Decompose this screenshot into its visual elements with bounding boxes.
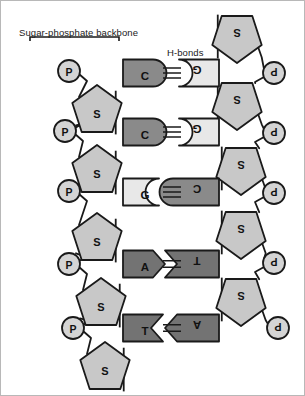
- left-sugar-label-2: S: [93, 236, 100, 248]
- base-label-right-0: G: [192, 64, 201, 76]
- left-sugar-label-1: S: [93, 168, 100, 180]
- dna-diagram-svg: SSSSSSSSSS CGCGGCATTA PPPPPPPPPP: [1, 1, 305, 396]
- right-sugar-label-2: S: [237, 159, 244, 171]
- right-sugar-label-4: S: [237, 290, 244, 302]
- right-link-p-to-s-3: [255, 267, 264, 279]
- backbone-bracket: [30, 37, 119, 41]
- right-link-p-to-s-0: [255, 77, 264, 83]
- base-right-T-3: [165, 251, 219, 278]
- right-phosphate-label-3: P: [270, 256, 277, 268]
- right-phosphate-label-0: P: [270, 66, 277, 78]
- base-label-right-1: G: [192, 123, 201, 135]
- base-label-right-3: T: [193, 255, 200, 267]
- left-link-p-to-s-3: [79, 267, 87, 290]
- left-phosphate-label-3: P: [65, 259, 72, 271]
- right-sugar-label-0: S: [233, 27, 240, 39]
- right-sugar-label-1: S: [233, 94, 240, 106]
- left-link-p-to-s-1: [75, 134, 83, 157]
- left-sugar-label-4: S: [101, 365, 108, 377]
- left-phosphate-label-4: P: [69, 323, 76, 335]
- right-link-p-to-s-1: [255, 137, 264, 148]
- base-pair-group: CGCGGCATTA: [123, 60, 219, 342]
- left-sugar-label-0: S: [93, 108, 100, 120]
- base-label-right-2: C: [193, 183, 201, 195]
- left-phosphate-label-0: P: [65, 66, 72, 78]
- right-phosphate-label-1: P: [270, 126, 277, 138]
- base-label-left-2: G: [141, 189, 150, 201]
- left-phosphate-label-1: P: [61, 126, 68, 138]
- base-label-left-1: C: [141, 129, 149, 141]
- right-phosphate-label-4: P: [274, 321, 281, 333]
- base-label-left-4: T: [141, 325, 148, 337]
- dna-diagram-canvas: Sugar-phosphate backbone H-bonds SSSSSSS…: [0, 0, 305, 396]
- left-phosphate-label-2: P: [65, 186, 72, 198]
- left-link-p-to-s-4: [83, 331, 91, 354]
- right-sugar-label-3: S: [237, 223, 244, 235]
- left-sugar-label-3: S: [97, 301, 104, 313]
- right-link-p-to-s-2: [255, 197, 264, 212]
- base-label-left-0: C: [141, 70, 149, 82]
- right-phosphate-label-2: P: [270, 186, 277, 198]
- base-label-left-3: A: [141, 261, 149, 273]
- base-label-right-4: A: [193, 319, 201, 331]
- base-right-A-4: [165, 315, 219, 342]
